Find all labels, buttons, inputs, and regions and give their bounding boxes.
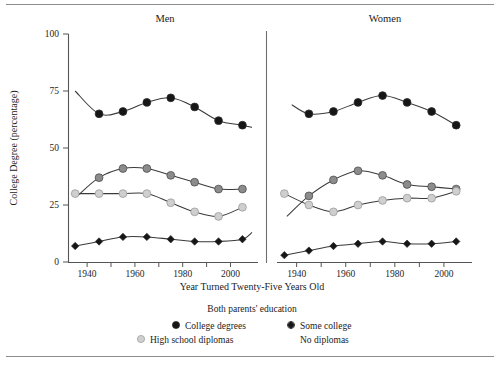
x-tick-label-0-1960: 1960: [125, 269, 144, 279]
legend-label-high-school-diplomas: High school diplomas: [150, 335, 234, 345]
y-axis-title: College Degree (percentage): [8, 91, 20, 206]
data-point-1965: [143, 190, 151, 198]
panel-men: [71, 91, 252, 250]
data-point-1985: [191, 238, 198, 245]
y-tick-label-50: 50: [50, 143, 60, 153]
panel-title-men: Men: [155, 13, 175, 24]
data-point-1945: [305, 247, 312, 254]
x-tick-label-1-1980: 1980: [385, 269, 404, 279]
data-point-1965: [354, 201, 362, 209]
data-point-2005: [239, 185, 247, 193]
chart-plot: College Degree (percentage) Year Turned …: [0, 0, 500, 367]
data-point-2005: [452, 238, 459, 245]
series-high-school-diplomas: [71, 190, 246, 221]
x-tick-label-1-1960: 1960: [336, 269, 355, 279]
x-tick-label-0-2000: 2000: [221, 269, 240, 279]
data-point-1995: [215, 117, 223, 125]
data-point-1975: [167, 94, 175, 102]
y-tick-label-0: 0: [54, 257, 59, 267]
data-point-1975: [379, 197, 387, 205]
x-tick-label-0-1940: 1940: [78, 269, 97, 279]
data-point-2005: [239, 121, 247, 129]
legend-item-some-college[interactable]: Some college: [287, 321, 351, 331]
data-point-1965: [143, 99, 151, 107]
data-point-1945: [95, 238, 102, 245]
data-point-1995: [428, 183, 436, 191]
data-point-1995: [428, 240, 435, 247]
legend-item-high-school-diplomas[interactable]: High school diplomas: [137, 335, 233, 345]
data-point-2005: [452, 121, 460, 129]
data-point-1975: [167, 236, 174, 243]
series-line-path: [75, 232, 252, 246]
data-point-1965: [354, 99, 362, 107]
data-point-1945: [95, 174, 103, 182]
chart-legend: Both parents' education College degrees …: [137, 304, 351, 345]
data-point-1985: [403, 99, 411, 107]
y-tick-label-100: 100: [45, 29, 60, 39]
data-point-1995: [215, 213, 223, 221]
data-point-1955: [330, 108, 338, 116]
data-point-1995: [428, 194, 436, 202]
data-point-1955: [330, 176, 338, 184]
data-point-1935: [71, 242, 78, 249]
legend-label-some-college: Some college: [300, 321, 351, 331]
series-college-degrees: [292, 92, 460, 129]
data-point-2005: [452, 187, 460, 195]
legend-item-college-degrees[interactable]: College degrees: [172, 321, 246, 331]
data-point-1975: [379, 171, 387, 179]
series-college-degrees: [75, 91, 252, 129]
data-point-1965: [354, 167, 362, 175]
x-tick-label-1-2000: 2000: [434, 269, 453, 279]
legend-title: Both parents' education: [207, 304, 297, 314]
data-point-1955: [119, 165, 127, 173]
x-axis-title: Year Turned Twenty-Five Years Old: [180, 281, 325, 292]
legend-label-no-diplomas: No diplomas: [300, 335, 349, 345]
data-point-1945: [305, 192, 313, 200]
series-line-path: [75, 91, 252, 127]
panel-women: [280, 92, 460, 259]
data-point-1945: [95, 190, 103, 198]
data-point-1955: [119, 108, 127, 116]
data-point-1975: [167, 199, 175, 207]
data-point-1935: [71, 190, 79, 198]
data-point-1985: [403, 194, 411, 202]
data-point-1975: [379, 92, 387, 100]
data-point-1985: [403, 240, 410, 247]
data-point-1995: [215, 185, 223, 193]
data-point-2005: [239, 236, 246, 243]
data-point-1935: [281, 251, 288, 258]
data-point-1945: [95, 110, 103, 118]
series-high-school-diplomas: [280, 187, 460, 215]
legend-marker-high-school-diplomas-icon: [137, 335, 144, 342]
bottom-divider-rule: [6, 356, 494, 357]
series-layer: [71, 91, 460, 259]
y-tick-label-75: 75: [50, 86, 60, 96]
data-point-1985: [191, 178, 199, 186]
figure-container: College Degree (percentage) Year Turned …: [0, 0, 500, 367]
series-no-diplomas: [71, 232, 252, 249]
x-tick-label-1-1940: 1940: [287, 269, 306, 279]
panel-title-women: Women: [369, 13, 402, 24]
legend-label-college-degrees: College degrees: [185, 321, 246, 331]
series-some-college: [78, 165, 247, 196]
legend-marker-college-degrees-icon: [172, 321, 179, 328]
y-tick-label-25: 25: [50, 200, 60, 210]
data-point-1965: [354, 240, 361, 247]
data-point-1955: [330, 208, 338, 216]
data-point-1955: [119, 190, 127, 198]
data-point-1985: [191, 208, 199, 216]
data-point-1985: [191, 103, 199, 111]
data-point-2005: [239, 203, 247, 211]
top-divider-rule: [6, 4, 494, 5]
data-point-1995: [428, 108, 436, 116]
data-point-1975: [379, 238, 386, 245]
data-point-1955: [119, 233, 126, 240]
data-point-1995: [215, 238, 222, 245]
data-point-1945: [305, 201, 313, 209]
data-point-1935: [280, 190, 288, 198]
data-point-1945: [305, 110, 313, 118]
x-tick-label-0-1980: 1980: [173, 269, 192, 279]
data-point-1965: [143, 233, 150, 240]
data-point-1985: [403, 181, 411, 189]
data-point-1965: [143, 165, 151, 173]
